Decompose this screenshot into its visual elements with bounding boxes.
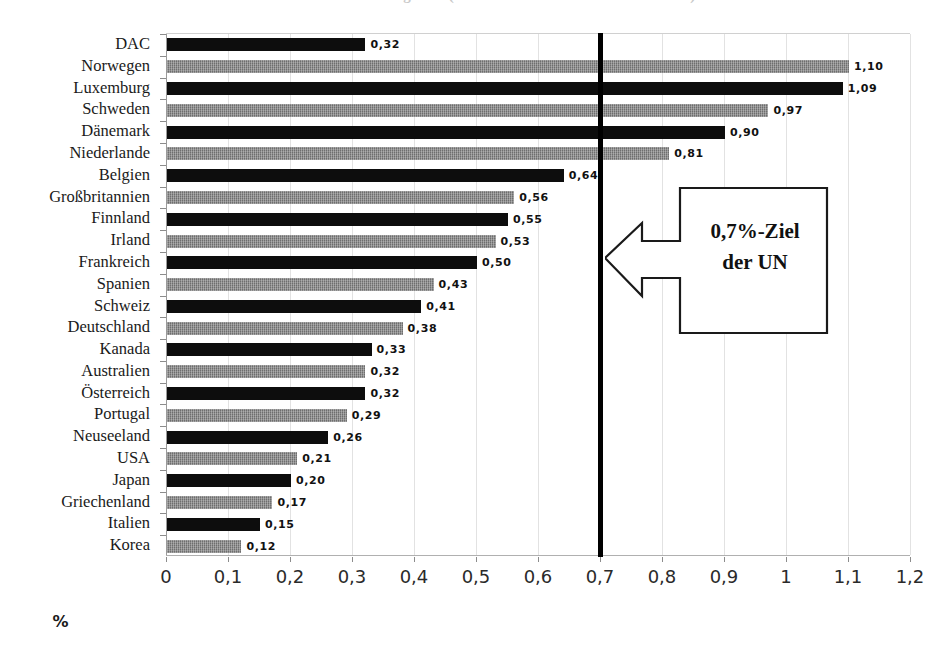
category-axis-tick xyxy=(160,383,166,384)
chart-screenshot: Öffentliche Entwicklungshilfe (Anteil am… xyxy=(0,0,949,653)
category-label: Kanada xyxy=(100,338,150,360)
bar xyxy=(167,278,434,291)
bar xyxy=(167,518,260,531)
bar-value-label: 0,29 xyxy=(352,409,382,422)
bar-value-label: 0,55 xyxy=(513,213,543,226)
category-axis-tick xyxy=(160,208,166,209)
bar-value-label: 0,38 xyxy=(408,322,438,335)
chart-title-cropped: Öffentliche Entwicklungshilfe (Anteil am… xyxy=(0,0,949,14)
category-axis-tick xyxy=(160,535,166,536)
bar-value-label: 0,33 xyxy=(377,343,407,356)
category-axis-tick xyxy=(160,230,166,231)
bar xyxy=(167,452,297,465)
bar-value-label: 0,64 xyxy=(569,169,599,182)
bar-value-label: 0,53 xyxy=(501,235,531,248)
category-axis-tick xyxy=(160,513,166,514)
x-axis-tick-label: 0,6 xyxy=(508,566,568,587)
category-axis-tick xyxy=(160,121,166,122)
bar-value-label: 0,90 xyxy=(730,126,760,139)
x-axis-tick xyxy=(414,557,415,562)
bar xyxy=(167,104,768,117)
x-axis-tick-label: 1,2 xyxy=(880,566,940,587)
bar-value-label: 0,21 xyxy=(302,452,332,465)
x-axis-tick-label: 0,5 xyxy=(446,566,506,587)
category-axis-tick xyxy=(160,339,166,340)
bar xyxy=(167,387,365,400)
x-axis-tick-label: 0,8 xyxy=(632,566,692,587)
x-axis-tick xyxy=(786,557,787,562)
bar-value-label: 0,17 xyxy=(277,496,307,509)
category-label: Niederlande xyxy=(69,142,150,164)
x-axis-tick xyxy=(476,557,477,562)
bar-value-label: 0,81 xyxy=(674,147,704,160)
bar xyxy=(167,82,843,95)
bar xyxy=(167,322,403,335)
bar xyxy=(167,213,508,226)
bar xyxy=(167,474,291,487)
category-axis-tick xyxy=(160,317,166,318)
un-target-reference-line xyxy=(598,33,603,557)
category-label: Schweden xyxy=(82,98,150,120)
bar-value-label: 1,10 xyxy=(854,60,884,73)
category-label: Griechenland xyxy=(61,491,150,513)
bar xyxy=(167,126,725,139)
bar xyxy=(167,300,421,313)
category-axis-tick xyxy=(160,470,166,471)
category-axis-tick xyxy=(160,34,166,35)
bar xyxy=(167,38,365,51)
category-label: Luxemburg xyxy=(73,77,150,99)
category-label: Neuseeland xyxy=(73,425,150,447)
bar-value-label: 0,32 xyxy=(370,38,400,51)
category-label: Norwegen xyxy=(81,55,150,77)
category-label: Korea xyxy=(110,534,150,556)
category-label: Belgien xyxy=(99,164,150,186)
bar-value-label: 1,09 xyxy=(848,82,878,95)
bar-value-label: 0,97 xyxy=(773,104,803,117)
x-axis-tick-label: 1,1 xyxy=(818,566,878,587)
category-label: Schweiz xyxy=(94,295,150,317)
bar xyxy=(167,147,669,160)
category-axis-tick xyxy=(160,404,166,405)
bar xyxy=(167,343,372,356)
x-axis-title: % xyxy=(0,612,949,631)
category-axis-tick xyxy=(160,78,166,79)
bar xyxy=(167,540,241,553)
x-axis-tick xyxy=(228,557,229,562)
x-axis-tick-label: 0 xyxy=(136,566,196,587)
callout-line-2: der UN xyxy=(685,247,825,278)
category-label: Japan xyxy=(112,469,150,491)
bar-value-label: 0,32 xyxy=(370,365,400,378)
x-axis-tick xyxy=(724,557,725,562)
bar xyxy=(167,496,272,509)
bar xyxy=(167,365,365,378)
gridline xyxy=(848,34,849,555)
bar-value-label: 0,41 xyxy=(426,300,456,313)
category-axis-tick xyxy=(160,492,166,493)
bar xyxy=(167,235,496,248)
x-axis-tick xyxy=(910,557,911,562)
category-label: Italien xyxy=(108,512,150,534)
bar-value-label: 0,32 xyxy=(370,387,400,400)
category-label: Australien xyxy=(81,360,150,382)
category-axis-tick xyxy=(160,296,166,297)
category-label: Spanien xyxy=(97,273,150,295)
x-axis-tick xyxy=(538,557,539,562)
x-axis-tick-label: 0,9 xyxy=(694,566,754,587)
x-axis-tick xyxy=(352,557,353,562)
category-label: Portugal xyxy=(94,403,150,425)
category-axis-tick xyxy=(160,274,166,275)
x-axis-tick xyxy=(166,557,167,562)
category-axis-tick xyxy=(160,99,166,100)
category-label: Dänemark xyxy=(81,120,150,142)
category-axis-tick xyxy=(160,165,166,166)
x-axis-tick-label: 1 xyxy=(756,566,816,587)
category-axis-tick xyxy=(160,187,166,188)
bar-value-label: 0,20 xyxy=(296,474,326,487)
x-axis-tick-label: 0,2 xyxy=(260,566,320,587)
bar-value-label: 0,12 xyxy=(246,540,276,553)
bar-value-label: 0,26 xyxy=(333,431,363,444)
bar xyxy=(167,191,514,204)
bar xyxy=(167,431,328,444)
x-axis-tick xyxy=(290,557,291,562)
x-axis-tick-label: 0,7 xyxy=(570,566,630,587)
